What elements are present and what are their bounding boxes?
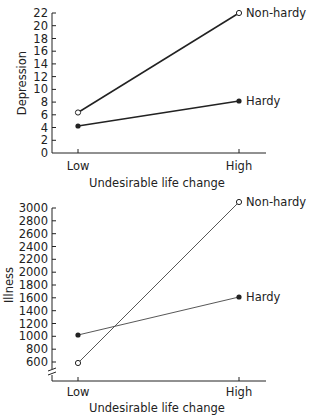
series-label-hardy: Hardy — [246, 94, 281, 108]
x-tick-label-high: High — [226, 385, 252, 399]
figure: 0 2 4 6 8 10 12 14 16 18 20 22 Depressio… — [0, 0, 312, 420]
ytick-3000: 3000 — [19, 201, 48, 215]
ytick-2200: 2200 — [19, 252, 48, 266]
x-tick-label-low: Low — [67, 385, 90, 399]
ytick-1200: 1200 — [19, 317, 48, 331]
ytick-6: 6 — [41, 108, 48, 122]
filled-circle-marker — [236, 98, 241, 103]
ytick-800: 800 — [26, 342, 48, 356]
y-axis-label: Illness — [2, 267, 16, 303]
ytick-14: 14 — [33, 57, 48, 71]
x-axis-label: Undesirable life change — [89, 401, 225, 415]
y-axis-label: Depression — [15, 51, 29, 115]
series-hardy: Hardy — [75, 94, 280, 129]
series-label-non-hardy: Non-hardy — [246, 195, 306, 209]
ytick-2: 2 — [41, 133, 48, 147]
ytick-16: 16 — [33, 44, 48, 58]
ytick-18: 18 — [33, 32, 48, 46]
ytick-0: 0 — [41, 146, 48, 160]
filled-circle-marker — [75, 123, 80, 128]
ytick-8: 8 — [41, 95, 48, 109]
series-label-hardy: Hardy — [246, 290, 281, 304]
series-label-non-hardy: Non-hardy — [246, 6, 306, 20]
illness-chart: 600 800 1000 1200 1400 1600 1800 2000 22… — [2, 195, 306, 415]
x-tick-label-low: Low — [67, 159, 90, 173]
ytick-22: 22 — [33, 6, 48, 20]
open-circle-marker — [236, 199, 241, 204]
filled-circle-marker — [236, 294, 241, 299]
axis-break-icon — [48, 368, 56, 375]
y-tick-labels: 0 2 4 6 8 10 12 14 16 18 20 22 — [33, 6, 48, 160]
ytick-20: 20 — [33, 19, 48, 33]
ytick-2800: 2800 — [19, 214, 48, 228]
open-circle-marker — [75, 110, 80, 115]
ytick-600: 600 — [26, 355, 48, 369]
series-hardy: Hardy — [75, 290, 280, 338]
ytick-1800: 1800 — [19, 278, 48, 292]
open-circle-marker — [75, 360, 80, 365]
y-ticks — [52, 13, 56, 140]
ytick-1000: 1000 — [19, 329, 48, 343]
ytick-12: 12 — [33, 70, 48, 84]
ytick-1400: 1400 — [19, 304, 48, 318]
ytick-2600: 2600 — [19, 227, 48, 241]
x-axis-label: Undesirable life change — [89, 176, 225, 190]
ytick-2400: 2400 — [19, 240, 48, 254]
y-tick-labels: 600 800 1000 1200 1400 1600 1800 2000 22… — [19, 201, 48, 369]
ytick-2000: 2000 — [19, 265, 48, 279]
x-tick-label-high: High — [226, 159, 252, 173]
filled-circle-marker — [75, 332, 80, 337]
open-circle-marker — [236, 10, 241, 15]
ytick-1600: 1600 — [19, 291, 48, 305]
ytick-10: 10 — [33, 82, 48, 96]
series-non-hardy: Non-hardy — [75, 195, 306, 366]
ytick-4: 4 — [41, 121, 48, 135]
depression-chart: 0 2 4 6 8 10 12 14 16 18 20 22 Depressio… — [15, 6, 306, 190]
y-ticks — [52, 208, 56, 362]
